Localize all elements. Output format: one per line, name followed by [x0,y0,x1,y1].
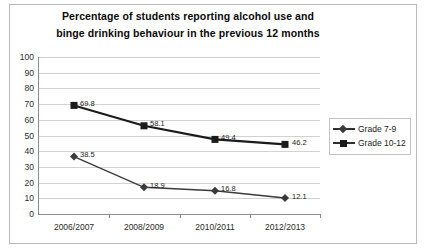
chart-title-line-2: binge drinking behaviour in the previous… [38,25,338,42]
legend-label-grade-10-12: Grade 10-12 [355,138,406,148]
gridline-60 [38,120,320,121]
chart-title-line-1: Percentage of students reporting alcohol… [62,10,314,22]
y-tick-label-20: 20 [6,179,34,188]
legend-label-grade-7-9: Grade 7-9 [355,124,396,134]
data-label-grade-10-12-3: 46.2 [292,139,307,147]
y-tick-label-90: 90 [6,69,34,78]
gridline-100 [38,57,320,58]
x-tick-label-2008-2009: 2008/2009 [109,222,179,232]
chart-title: Percentage of students reporting alcohol… [38,8,338,42]
gridline-90 [38,73,320,74]
gridline-50 [38,136,320,137]
y-tick-label-80: 80 [6,84,34,93]
y-tick-label-100: 100 [6,53,34,62]
chart-container: Percentage of students reporting alcohol… [0,0,428,252]
legend-entry-grade-7-9[interactable]: Grade 7-9 [333,122,408,136]
data-label-grade-7-9-1: 18.9 [150,182,165,190]
y-tick-label-0: 0 [6,210,34,219]
legend-entry-grade-10-12[interactable]: Grade 10-12 [333,136,408,150]
y-tick-label-70: 70 [6,100,34,109]
data-label-grade-10-12-1: 58.1 [150,120,165,128]
data-label-grade-7-9-2: 16.8 [221,185,236,193]
y-tick-label-10: 10 [6,194,34,203]
legend-marker-square-icon [333,138,355,148]
y-axis-line [38,57,39,215]
data-label-grade-7-9-0: 38.5 [80,151,95,159]
x-tick-label-2006-2007: 2006/2007 [39,222,109,232]
gridline-20 [38,183,320,184]
gridline-30 [38,167,320,168]
gridline-10 [38,198,320,199]
y-tick-label-30: 30 [6,163,34,172]
plot-area [38,57,320,214]
legend-marker-diamond-icon [333,124,355,134]
data-label-grade-10-12-0: 69.8 [80,100,95,108]
y-tick-label-60: 60 [6,116,34,125]
x-tick-mark-2 [180,214,181,218]
x-tick-mark-1 [109,214,110,218]
x-tick-label-2012-2013: 2012/2013 [250,222,320,232]
x-tick-label-2010-2011: 2010/2011 [180,222,250,232]
data-label-grade-10-12-2: 49.4 [221,134,236,142]
x-tick-mark-3 [250,214,251,218]
y-tick-label-50: 50 [6,132,34,141]
chart-legend: Grade 7-9 Grade 10-12 [329,118,411,155]
x-tick-mark-4 [320,214,321,218]
data-label-grade-7-9-3: 12.1 [292,193,307,201]
gridline-80 [38,88,320,89]
y-tick-label-40: 40 [6,147,34,156]
